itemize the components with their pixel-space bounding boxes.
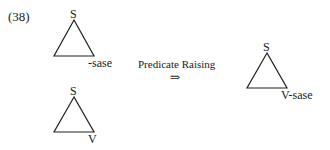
triangle-output — [247, 53, 287, 88]
tree2-root-label: S — [70, 85, 77, 97]
tree3-leaf-label: V-sase — [281, 89, 313, 101]
tree2-leaf-label: V — [88, 133, 97, 145]
operation-label: Predicate Raising — [138, 59, 215, 70]
tree1-root-label: S — [70, 8, 77, 20]
triangle-input-2 — [54, 97, 94, 132]
tree-triangles — [0, 0, 330, 150]
double-arrow-icon: ⇒ — [170, 71, 180, 83]
tree3-root-label: S — [263, 41, 270, 53]
triangle-input-1 — [54, 20, 94, 56]
tree1-leaf-label: -sase — [88, 57, 112, 69]
